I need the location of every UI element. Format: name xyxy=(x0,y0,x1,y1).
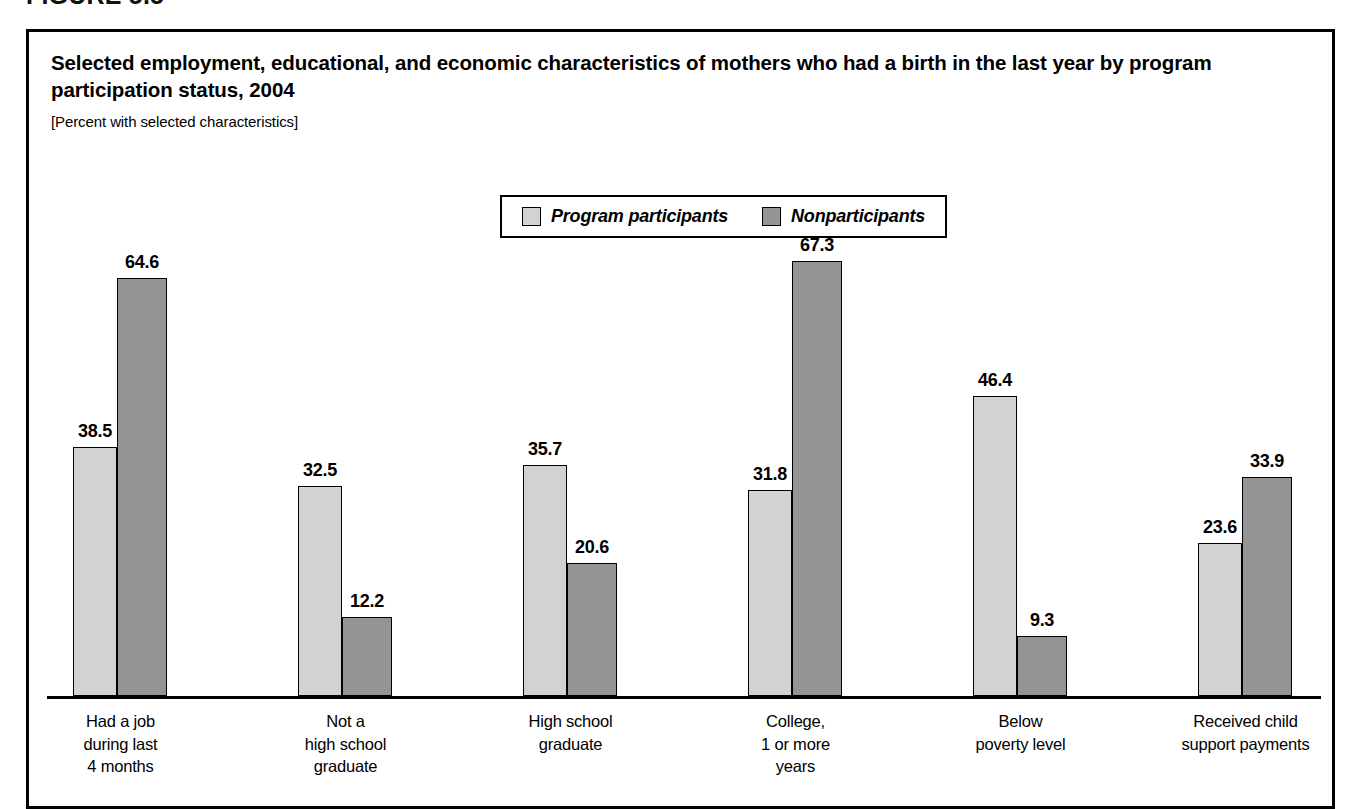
chart-plot-area: 38.564.632.512.235.720.631.867.346.49.32… xyxy=(29,32,1332,806)
bar-nonparticipants[interactable]: 12.2 xyxy=(342,617,392,696)
bar-pair: 38.564.6 xyxy=(73,278,167,696)
bar-nonparticipants[interactable]: 9.3 xyxy=(1017,636,1067,696)
bar-program-participants[interactable]: 35.7 xyxy=(523,465,567,696)
bar-nonparticipants[interactable]: 64.6 xyxy=(117,278,167,696)
bar-program-participants[interactable]: 32.5 xyxy=(298,486,342,696)
bar-value-label: 35.7 xyxy=(528,439,562,460)
bar-value-label: 20.6 xyxy=(575,537,609,558)
category-label: Received child support payments xyxy=(1133,710,1350,755)
bar-program-participants[interactable]: 23.6 xyxy=(1198,543,1242,696)
bar-value-label: 33.9 xyxy=(1250,451,1284,472)
bar-value-label: 32.5 xyxy=(303,460,337,481)
category-label: High school graduate xyxy=(458,710,683,755)
bar-value-label: 9.3 xyxy=(1030,610,1054,631)
bar-program-participants[interactable]: 38.5 xyxy=(73,447,117,696)
category-label: Had a job during last 4 months xyxy=(8,710,233,778)
bar-value-label: 23.6 xyxy=(1203,517,1237,538)
category-label: Below poverty level xyxy=(908,710,1133,755)
bar-pair: 35.720.6 xyxy=(523,465,617,696)
bar-nonparticipants[interactable]: 67.3 xyxy=(792,261,842,696)
bar-value-label: 31.8 xyxy=(753,464,787,485)
bar-value-label: 64.6 xyxy=(125,252,159,273)
x-axis-line xyxy=(47,696,1321,699)
bar-pair: 23.633.9 xyxy=(1198,477,1292,696)
category-label: Not a high school graduate xyxy=(233,710,458,778)
figure-number: FIGURE 5.5 xyxy=(26,0,164,10)
bar-program-participants[interactable]: 46.4 xyxy=(973,396,1017,696)
bar-value-label: 67.3 xyxy=(800,235,834,256)
category-label: College, 1 or more years xyxy=(683,710,908,778)
figure-box: Selected employment, educational, and ec… xyxy=(26,29,1335,809)
bar-pair: 32.512.2 xyxy=(298,486,392,696)
bar-pair: 46.49.3 xyxy=(973,396,1067,696)
bar-program-participants[interactable]: 31.8 xyxy=(748,490,792,696)
bar-pair: 31.867.3 xyxy=(748,261,842,696)
bar-nonparticipants[interactable]: 20.6 xyxy=(567,563,617,696)
bar-nonparticipants[interactable]: 33.9 xyxy=(1242,477,1292,696)
bar-value-label: 46.4 xyxy=(978,370,1012,391)
bar-value-label: 12.2 xyxy=(350,591,384,612)
bar-value-label: 38.5 xyxy=(78,421,112,442)
